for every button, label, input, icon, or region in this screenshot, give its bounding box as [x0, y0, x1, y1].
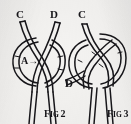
label-d-fig2: D — [50, 9, 58, 20]
label-a-arrow-icon: → — [28, 55, 38, 66]
diagram-canvas: C D A→ C D FIG2 FIG3 — [0, 0, 131, 124]
caption-fig-3: FIG3 — [107, 104, 128, 120]
rope-shading-tick — [118, 52, 122, 53]
caption-fig-2: FIG2 — [44, 104, 65, 120]
caption-fig2-number: 2 — [60, 108, 65, 119]
label-c-fig2: C — [16, 9, 24, 20]
caption-fig3-number: 3 — [123, 108, 128, 119]
rope-tail-right-lower-b — [94, 88, 97, 124]
rope-shading-tick — [78, 60, 82, 62]
rope-tail-right-lower-a — [89, 88, 92, 124]
label-c-fig3: C — [78, 9, 86, 20]
caption-fig3-small: IG — [113, 110, 122, 119]
rope-shading-tick — [99, 64, 103, 67]
label-a-fig2: A→ — [21, 56, 38, 66]
label-d-fig3: D — [65, 78, 73, 89]
caption-fig2-small: IG — [50, 110, 59, 119]
